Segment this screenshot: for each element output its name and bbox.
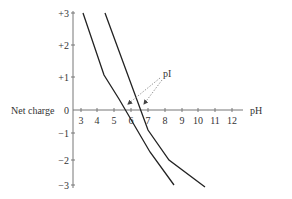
- y-tick-label: +1: [58, 72, 69, 83]
- y-axis-label: Net charge: [11, 105, 55, 116]
- x-tick-label: 5: [112, 115, 117, 126]
- y-tick-label: 0: [64, 105, 69, 116]
- net-charge-vs-ph-chart: +3 +2 +1 0 −1 −2 −3 Net charge 3 4 5 6 7…: [0, 0, 292, 199]
- pi-pointer-b: [144, 80, 162, 104]
- curve-protein-a: [83, 13, 174, 185]
- y-tick-label: −1: [58, 128, 69, 139]
- x-tick-label: 4: [95, 115, 100, 126]
- x-tick-label: 12: [227, 115, 237, 126]
- x-tick-label: 10: [193, 115, 203, 126]
- x-axis-label: pH: [250, 105, 262, 116]
- x-tick-label: 3: [79, 115, 84, 126]
- y-tick-label: −2: [58, 155, 69, 166]
- y-tick-label: −3: [58, 180, 69, 191]
- y-tick-label: +2: [58, 40, 69, 51]
- y-tick-labels: +3 +2 +1 0 −1 −2 −3: [58, 8, 69, 191]
- pi-pointer-a: [128, 78, 160, 104]
- x-tick-labels: 3 4 5 6 7 8 9 10 11 12: [79, 115, 238, 126]
- x-tick-label: 9: [180, 115, 185, 126]
- x-tick-label: 11: [210, 115, 220, 126]
- x-tick-label: 8: [163, 115, 168, 126]
- y-tick-label: +3: [58, 8, 69, 19]
- pi-label: pI: [163, 68, 171, 79]
